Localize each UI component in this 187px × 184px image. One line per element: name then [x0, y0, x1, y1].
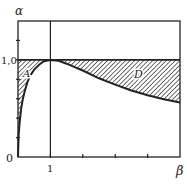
region-label-a: A — [22, 68, 30, 79]
hatched-region-d — [50, 60, 180, 103]
hatched-regions — [18, 60, 180, 157]
x-axis-label: β — [175, 163, 184, 178]
diagram: α 1,0 0 1 β A D — [0, 0, 187, 184]
x-tick-label-1: 1 — [47, 163, 53, 174]
region-label-d: D — [133, 68, 143, 81]
origin-label: 0 — [6, 152, 13, 165]
y-axis-label: α — [15, 4, 23, 18]
y-tick-label-1: 1,0 — [1, 55, 17, 66]
axis-ticks — [16, 40, 148, 158]
